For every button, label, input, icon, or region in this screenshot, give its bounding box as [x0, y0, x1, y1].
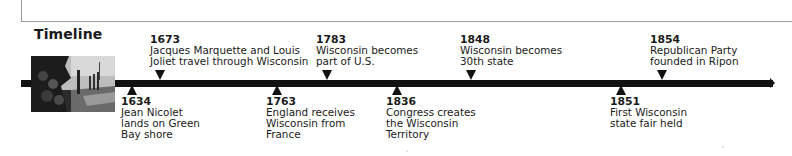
- marker-up-icon: [392, 85, 402, 95]
- event-1848: 1848 Wisconsin becomes 30th state: [460, 34, 562, 67]
- marker-down-icon: [657, 70, 667, 80]
- event-desc: state fair held: [610, 118, 687, 129]
- event-desc: Territory: [386, 129, 476, 140]
- timeline-heading: Timeline: [34, 26, 102, 42]
- marker-down-icon: [322, 70, 332, 80]
- historical-photo: [31, 56, 115, 112]
- timeline-bar-end: [770, 78, 775, 88]
- event-1673: 1673 Jacques Marquette and Louis Joliet …: [150, 34, 308, 67]
- event-1634: 1634 Jean Nicolet lands on Green Bay sho…: [121, 96, 200, 140]
- event-1851: 1851 First Wisconsin state fair held: [610, 96, 687, 129]
- event-desc: Joliet travel through Wisconsin: [150, 56, 308, 67]
- marker-down-icon: [466, 70, 476, 80]
- event-1783: 1783 Wisconsin becomes part of U.S.: [316, 34, 418, 67]
- event-desc: founded in Ripon: [650, 56, 739, 67]
- marker-up-icon: [616, 85, 626, 95]
- event-desc: Bay shore: [121, 129, 200, 140]
- marker-up-icon: [272, 85, 282, 95]
- photo-icon: [31, 56, 115, 112]
- marker-up-icon: [127, 85, 137, 95]
- event-desc: France: [266, 129, 355, 140]
- event-1763: 1763 England receives Wisconsin from Fra…: [266, 96, 355, 140]
- event-desc: 30th state: [460, 56, 562, 67]
- event-1836: 1836 Congress creates the Wisconsin Terr…: [386, 96, 476, 140]
- top-content-box: [21, 0, 792, 22]
- event-desc: part of U.S.: [316, 56, 418, 67]
- event-1854: 1854 Republican Party founded in Ripon: [650, 34, 739, 67]
- scan-speck: [722, 146, 724, 148]
- scan-speck: [406, 150, 408, 152]
- marker-down-icon: [155, 70, 165, 80]
